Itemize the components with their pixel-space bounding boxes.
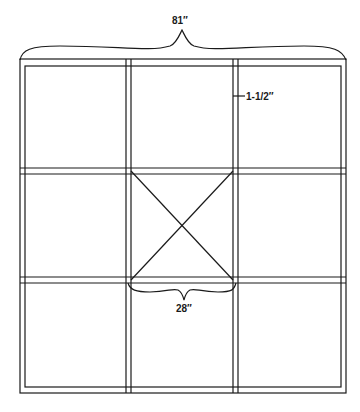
center-width-label: 28″ bbox=[176, 303, 192, 314]
overall-width-label: 81″ bbox=[172, 15, 188, 26]
center-width-brace bbox=[128, 283, 236, 300]
overall-width-brace bbox=[20, 30, 346, 60]
frame-diagram: 81″ 1-1/2″ 28″ bbox=[0, 0, 360, 412]
member-width-label: 1-1/2″ bbox=[246, 91, 274, 102]
